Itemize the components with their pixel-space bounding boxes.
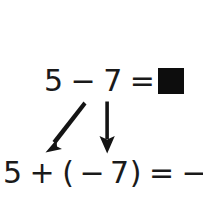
bottom-result: −2 <box>182 158 203 188</box>
equation-line-top: 5−7= <box>44 66 162 96</box>
bottom-operand-right: 7 <box>110 158 130 188</box>
bottom-negative-sign: − <box>79 158 105 188</box>
top-operand-left: 5 <box>44 66 64 96</box>
vertical-arrow-icon <box>100 102 115 154</box>
bottom-close-paren: ) <box>130 158 142 188</box>
answer-blank-box[interactable] <box>158 68 184 94</box>
bottom-equals-sign: = <box>149 158 175 188</box>
top-minus-operator: − <box>71 66 97 96</box>
bottom-operand-left: 5 <box>3 158 23 188</box>
equation-line-bottom: 5+(−7)=−2 <box>3 158 203 188</box>
math-figure: 5−7= 5+(−7)=−2 <box>0 0 203 201</box>
diagonal-arrow-icon <box>46 102 87 153</box>
top-equals-sign: = <box>130 66 156 96</box>
top-operand-right: 7 <box>103 66 123 96</box>
bottom-plus-operator: + <box>30 158 56 188</box>
bottom-open-paren: ( <box>62 158 74 188</box>
